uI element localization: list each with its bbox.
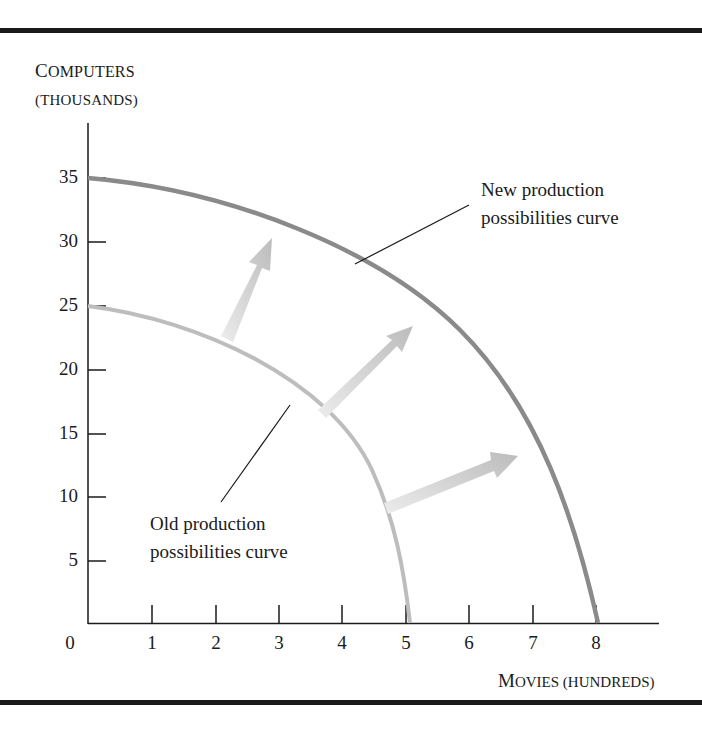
shift-arrow-2 xyxy=(318,326,413,418)
y-tick-label: 25 xyxy=(48,294,78,316)
new-curve-label-line2: possibilities curve xyxy=(481,204,619,232)
y-tick-label: 35 xyxy=(48,166,78,188)
old-curve-label-line1: Old production xyxy=(150,510,288,538)
y-tick-label: 5 xyxy=(48,549,78,571)
shift-arrow-1 xyxy=(221,238,272,342)
x-tick-marks xyxy=(152,605,596,623)
x-tick-label: 6 xyxy=(459,632,479,654)
y-tick-label: 10 xyxy=(48,485,78,507)
old-curve-leader-line xyxy=(221,405,290,502)
x-tick-label: 1 xyxy=(142,632,162,654)
old-ppf-curve xyxy=(88,306,410,623)
new-curve-label-line1: New production xyxy=(481,176,619,204)
x-tick-label: 5 xyxy=(396,632,416,654)
old-curve-label: Old production possibilities curve xyxy=(150,510,288,566)
x-tick-label: 2 xyxy=(206,632,226,654)
x-tick-label: 8 xyxy=(586,632,606,654)
shift-arrow-3 xyxy=(384,452,518,514)
x-tick-label: 3 xyxy=(269,632,289,654)
y-axis-title-line1: COMPUTERS xyxy=(35,60,135,82)
origin-label: 0 xyxy=(60,632,80,654)
y-tick-label: 20 xyxy=(48,358,78,380)
y-tick-label: 15 xyxy=(48,422,78,444)
x-tick-label: 7 xyxy=(523,632,543,654)
x-axis-title: MOVIES (HUNDREDS) xyxy=(498,670,654,692)
y-tick-marks xyxy=(88,178,106,561)
y-axis-title-line2: (THOUSANDS) xyxy=(35,92,138,109)
new-curve-leader-line xyxy=(355,205,469,264)
y-tick-label: 30 xyxy=(48,230,78,252)
ppf-chart xyxy=(0,0,702,733)
new-curve-label: New production possibilities curve xyxy=(481,176,619,232)
old-curve-label-line2: possibilities curve xyxy=(150,538,288,566)
x-tick-label: 4 xyxy=(332,632,352,654)
